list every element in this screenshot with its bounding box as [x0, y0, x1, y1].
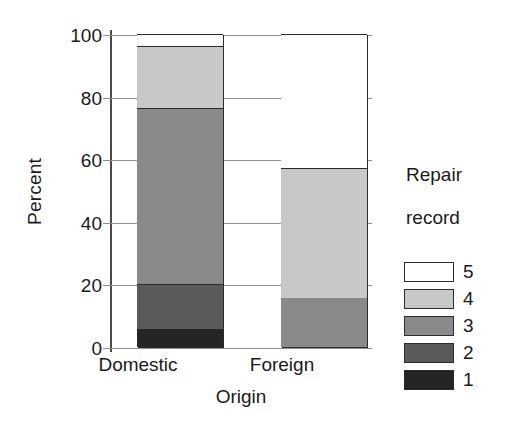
bar-segment-domestic-2[interactable] — [137, 284, 223, 329]
legend-swatch-2 — [404, 343, 454, 363]
y-tick-label-80: 80 — [46, 88, 102, 107]
gridline-0 — [110, 348, 372, 349]
legend-title-line2: record — [406, 207, 512, 228]
legend-item-2[interactable]: 2 — [404, 340, 512, 365]
legend-title: Repair record — [406, 143, 512, 249]
plot-area — [110, 35, 372, 348]
legend-item-4[interactable]: 4 — [404, 286, 512, 311]
bar-segment-foreign-3[interactable] — [281, 298, 367, 347]
tickmark-40 — [103, 223, 110, 224]
tickmark-60 — [103, 160, 110, 161]
legend-swatch-5 — [404, 262, 454, 282]
legend-swatch-3 — [404, 316, 454, 336]
legend-label-1: 1 — [463, 370, 474, 389]
tickmark-0 — [103, 348, 110, 349]
tickmark-100 — [103, 35, 110, 36]
y-tick-label-20: 20 — [46, 276, 102, 295]
legend-label-2: 2 — [463, 343, 474, 362]
tickmark-20 — [103, 285, 110, 286]
legend-item-1[interactable]: 1 — [404, 367, 512, 392]
y-tick-label-100: 100 — [46, 26, 102, 45]
x-tick-label-domestic: Domestic — [58, 354, 218, 376]
x-tick-label-foreign: Foreign — [202, 354, 362, 376]
legend-title-line1: Repair — [406, 164, 512, 185]
bar-foreign[interactable] — [282, 35, 368, 348]
legend-item-3[interactable]: 3 — [404, 313, 512, 338]
legend-items: 54321 — [404, 259, 512, 392]
bar-segment-foreign-4[interactable] — [281, 168, 367, 298]
stacked-bar-chart: Percent 100 80 60 40 20 0 Domestic Forei… — [0, 0, 512, 425]
legend-label-3: 3 — [463, 316, 474, 335]
legend-item-5[interactable]: 5 — [404, 259, 512, 284]
legend-label-5: 5 — [463, 262, 474, 281]
y-tick-label-60: 60 — [46, 151, 102, 170]
bar-domestic[interactable] — [138, 35, 224, 348]
bar-segment-domestic-3[interactable] — [137, 108, 223, 284]
legend-swatch-4 — [404, 289, 454, 309]
bar-segment-domestic-4[interactable] — [137, 46, 223, 108]
bar-segment-domestic-1[interactable] — [137, 329, 223, 347]
legend-label-4: 4 — [463, 289, 474, 308]
tickmark-80 — [103, 98, 110, 99]
x-axis-title: Origin — [110, 386, 372, 408]
legend: Repair record 54321 — [404, 143, 512, 394]
bar-segment-domestic-5[interactable] — [137, 34, 223, 46]
bar-segment-foreign-5[interactable] — [281, 34, 367, 168]
y-tick-label-40: 40 — [46, 213, 102, 232]
legend-swatch-1 — [404, 370, 454, 390]
